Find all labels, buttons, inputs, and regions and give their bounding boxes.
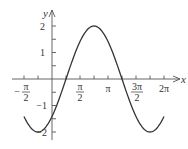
y-label-1: 1 — [40, 47, 45, 58]
x-label-pi: π — [105, 83, 110, 94]
x-label-neg-pi-over-2: − π 2 — [14, 81, 30, 103]
x-ticks — [24, 76, 164, 80]
y-label-2: 2 — [40, 21, 45, 32]
x-label-pi-over-2: π 2 — [76, 81, 84, 103]
minus-sign: − — [14, 86, 20, 97]
y-tick-labels: 2 1 −1 −2 — [36, 21, 47, 138]
denominator: 2 — [135, 92, 140, 103]
sine-chart: x y 2 1 −1 −2 − π 2 π — [0, 0, 188, 149]
numerator: π — [23, 81, 28, 92]
x-axis-label: x — [180, 73, 186, 85]
x-label-3pi-over-2: 3π 2 — [131, 81, 143, 103]
numerator: 3π — [132, 81, 142, 92]
denominator: 2 — [78, 92, 83, 103]
denominator: 2 — [24, 92, 29, 103]
numerator: π — [77, 81, 82, 92]
x-label-2pi: 2π — [159, 83, 169, 94]
y-axis-label: y — [42, 7, 48, 19]
y-label-neg1: −1 — [36, 100, 47, 111]
